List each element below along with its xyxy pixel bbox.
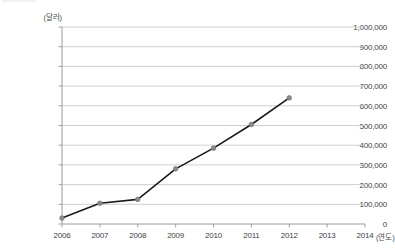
data-point-markers	[60, 96, 292, 221]
x-axis-ticks	[62, 224, 365, 228]
gridlines	[62, 27, 365, 224]
data-series-line	[62, 98, 289, 218]
y-axis-ticks	[59, 27, 63, 224]
